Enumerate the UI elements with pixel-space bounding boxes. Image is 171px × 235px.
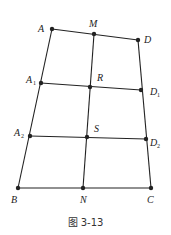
label-A2: A [13,127,21,138]
label-D: D [143,34,152,45]
point-D1 [139,88,143,92]
point-B [16,186,20,190]
point-C [149,186,153,190]
point-M [92,32,96,36]
segment-M-N [83,34,94,188]
label-N: N [79,194,88,205]
figure-caption: 图 3-13 [0,214,171,229]
label-C: C [147,194,154,205]
label-A: A [37,23,45,34]
label-M: M [88,18,98,29]
point-A1 [39,81,43,85]
label-subscript-A1: 1 [33,80,36,86]
label-subscript-D2: 2 [157,143,160,149]
segments [18,29,151,188]
vertex-labels: AMDA1RD1A2SD2BNC [11,18,160,205]
diagram-canvas: AMDA1RD1A2SD2BNC [0,0,171,235]
segment-D-C [138,40,151,188]
label-subscript-A2: 2 [21,133,24,139]
point-A [50,27,54,31]
label-R: R [96,72,103,83]
point-S [85,135,89,139]
quadrilateral-grid-diagram: AMDA1RD1A2SD2BNC 图 3-13 [0,0,171,235]
point-A2 [28,134,32,138]
point-N [81,186,85,190]
point-D2 [144,137,148,141]
label-S: S [94,123,99,134]
label-A1: A [25,74,33,85]
label-B: B [11,194,17,205]
segment-A-B [18,29,52,188]
point-R [88,85,92,89]
point-D [136,38,140,42]
label-subscript-D1: 1 [157,92,160,98]
